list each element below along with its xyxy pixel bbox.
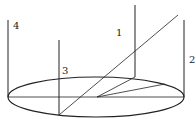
diagram-canvas: 1 2 3 4 xyxy=(0,0,196,129)
label-pole-3: 3 xyxy=(62,65,68,76)
label-pole-2: 2 xyxy=(189,54,195,65)
label-pole-4: 4 xyxy=(13,20,19,31)
label-pole-1: 1 xyxy=(116,27,122,38)
radius-line xyxy=(97,84,165,97)
projection-line xyxy=(97,77,135,97)
